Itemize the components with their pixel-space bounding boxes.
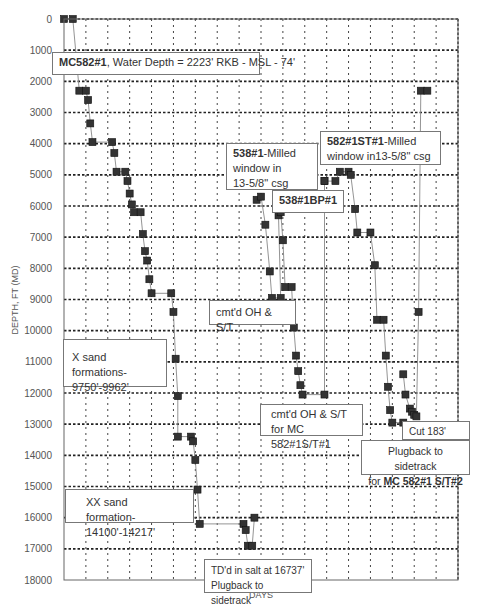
note-water-depth-text: , Water Depth = 2223' RKB - MSL - 74': [107, 56, 295, 68]
svg-text:13000: 13000: [24, 419, 52, 430]
svg-text:11000: 11000: [25, 356, 53, 367]
note-cmtd-oh-st-582st1: cmt'd OH & S/T for MC 582#1S/T#1: [260, 404, 363, 436]
note-plugback-bold: MC 582#1 S/T#2: [383, 475, 462, 487]
svg-text:8000: 8000: [30, 263, 53, 274]
svg-text:4000: 4000: [30, 138, 53, 149]
note-plugback-line1: Plugback to sidetrack: [388, 445, 443, 472]
note-cmtd-oh-st: cmt'd OH & S/T: [209, 300, 296, 325]
svg-text:7000: 7000: [30, 232, 53, 243]
y-axis-ticks: 0100020003000400050006000700080009000100…: [24, 14, 52, 586]
svg-text:15000: 15000: [24, 481, 52, 492]
svg-text:16000: 16000: [24, 512, 52, 523]
svg-text:2000: 2000: [30, 76, 53, 87]
note-cut-183-conv: Cut 183' conv.: [402, 421, 470, 440]
svg-text:3000: 3000: [30, 107, 53, 118]
note-538-milled-window: 538#1-Milled window in 13-5/8" csg: [226, 143, 318, 190]
note-582st1-milled-window: 582#1ST#1-Milled window in13-5/8" csg: [320, 131, 441, 165]
note-water-depth-bold: MC582#1: [59, 56, 107, 68]
note-538-bold: 538#1: [233, 147, 264, 159]
svg-text:6000: 6000: [30, 201, 53, 212]
svg-text:18000: 18000: [24, 575, 52, 586]
note-td-salt: TD'd in salt at 16737' Plugback to sidet…: [204, 559, 312, 593]
y-axis-label: DEPTH, FT (MD): [10, 266, 20, 335]
note-582st-bold: 582#1ST#1: [327, 135, 384, 147]
svg-text:12000: 12000: [24, 388, 52, 399]
svg-text:14000: 14000: [24, 450, 52, 461]
note-xx-sand: XX sand formation- 14100'-14217': [65, 489, 194, 523]
svg-text:9000: 9000: [30, 294, 53, 305]
note-water-depth: MC582#1, Water Depth = 2223' RKB - MSL -…: [52, 52, 260, 75]
svg-text:10000: 10000: [24, 325, 52, 336]
note-x-sand: X sand formations- 9750'-9962': [63, 339, 167, 387]
svg-text:5000: 5000: [30, 169, 53, 180]
note-plugback-st2: Plugback to sidetrackfor MC 582#1 S/T#2: [361, 440, 470, 475]
svg-text:17000: 17000: [24, 543, 52, 554]
svg-text:0: 0: [46, 14, 52, 25]
svg-text:1000: 1000: [30, 45, 53, 56]
note-plugback-for: for: [368, 475, 383, 487]
note-538bp1: 538#1BP#1: [272, 190, 344, 213]
